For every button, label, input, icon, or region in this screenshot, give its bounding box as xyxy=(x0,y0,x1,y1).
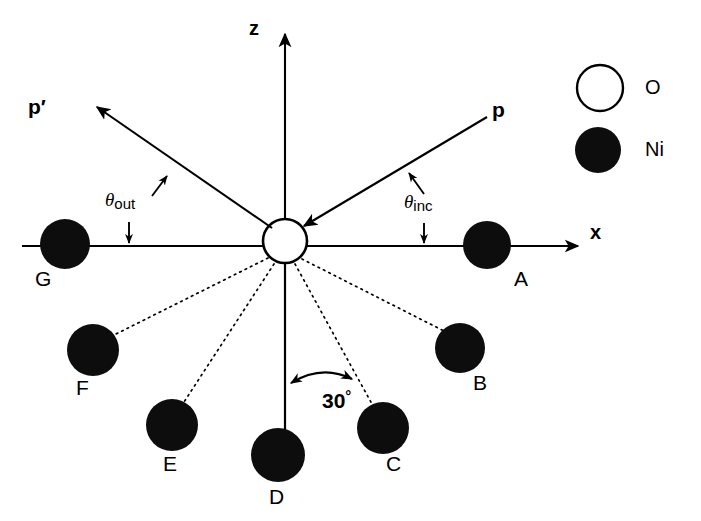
theta-out-subscript: out xyxy=(114,195,135,212)
diagram-canvas xyxy=(0,0,701,521)
atom-B xyxy=(435,323,485,373)
momentum-p-arrow xyxy=(304,117,487,226)
atom-E xyxy=(146,399,198,451)
atom-label-B: B xyxy=(473,372,487,393)
theta-out-symbol: θ xyxy=(105,189,114,210)
theta-out-upper-pointer-arrow xyxy=(152,176,167,196)
legend-ni-icon xyxy=(575,127,621,173)
theta-inc-label: θinc xyxy=(404,192,433,213)
atom-label-E: E xyxy=(163,453,177,474)
legend-label-o: O xyxy=(645,77,661,97)
bond-lines-group xyxy=(110,258,444,404)
legend-label-ni: Ni xyxy=(645,139,664,159)
angle-30-degree-label: 30° xyxy=(322,388,351,411)
momentum-p-label: p xyxy=(492,99,505,120)
momentum-p-prime-letter: p xyxy=(28,95,41,118)
bond-line-to-B xyxy=(302,259,444,331)
angle-30-degree-symbol: ° xyxy=(345,387,351,404)
atom-G xyxy=(40,219,90,269)
bond-line-to-F xyxy=(110,258,268,337)
atom-label-D: D xyxy=(269,486,284,507)
theta-out-label: θout xyxy=(105,190,135,211)
scattering-diagram-figure: z x p′ p θout θinc 30° A B C D E F G O N… xyxy=(0,0,701,521)
atom-label-F: F xyxy=(76,377,89,398)
legend-o-icon xyxy=(577,65,623,111)
bond-line-to-E xyxy=(184,264,274,402)
legend-symbols-group xyxy=(575,65,623,173)
atom-A xyxy=(463,221,511,269)
theta-inc-symbol: θ xyxy=(404,191,413,212)
momentum-p-prime-label: p′ xyxy=(28,96,46,117)
atom-label-A: A xyxy=(514,268,528,289)
angle-arc-30deg xyxy=(291,372,352,383)
atom-label-C: C xyxy=(386,453,401,474)
atom-label-G: G xyxy=(35,268,51,289)
momentum-prime-mark: ′ xyxy=(41,95,46,118)
x-axis-label: x xyxy=(590,222,601,242)
z-axis-label: z xyxy=(249,18,259,38)
theta-inc-subscript: inc xyxy=(413,197,432,214)
bond-line-to-C xyxy=(295,264,372,404)
angle-30-value: 30 xyxy=(322,389,345,412)
atom-C xyxy=(357,402,409,454)
atom-D xyxy=(251,428,305,482)
atom-F xyxy=(67,324,119,376)
